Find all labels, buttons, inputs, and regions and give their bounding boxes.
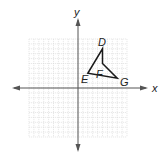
y-axis-up-arrow-icon [76, 18, 81, 26]
y-axis-down-arrow-icon [76, 144, 81, 152]
vertex-label-g: G [120, 76, 129, 88]
vertex-label-f: F [96, 68, 104, 80]
x-axis-left-arrow-icon [12, 86, 20, 91]
vertex-label-e: E [81, 73, 89, 85]
y-axis-label: y [73, 6, 81, 18]
coordinate-plane: x y D F G E [0, 0, 168, 158]
x-axis-label: x [151, 82, 158, 94]
vertex-label-d: D [98, 36, 106, 48]
x-axis-right-arrow-icon [140, 86, 148, 91]
